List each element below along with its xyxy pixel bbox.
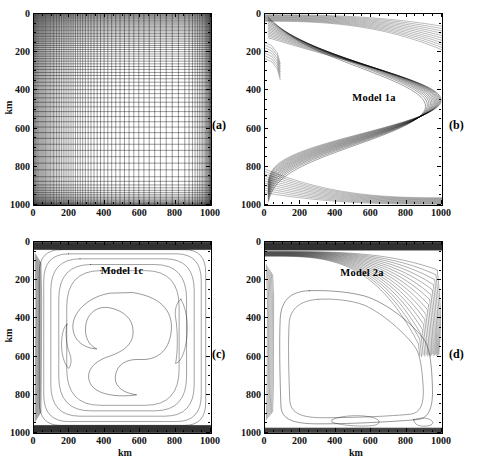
ytick-right-a-50	[208, 23, 211, 24]
ytick-right-c-750	[208, 384, 211, 385]
ytick-b-100	[264, 32, 267, 33]
xtick-b-50	[273, 202, 274, 205]
xtick-b-850	[414, 202, 415, 205]
xtick-d-850	[414, 430, 415, 433]
yticklabel-d-0: 0	[237, 236, 261, 247]
xtick-c-400	[104, 428, 105, 432]
ytick-right-b-700	[439, 147, 442, 148]
xtick-d-200	[299, 428, 300, 432]
xtick-top-c-1000	[210, 241, 211, 245]
xtick-c-350	[95, 430, 96, 433]
xtick-top-d-450	[344, 241, 345, 244]
xtick-top-c-300	[86, 241, 87, 244]
xtick-top-b-300	[317, 13, 318, 16]
ytick-b-250	[264, 61, 267, 62]
ytick-d-350	[264, 308, 267, 309]
xtick-c-1000	[210, 428, 211, 432]
ytick-d-900	[264, 413, 267, 414]
xtick-a-700	[157, 202, 158, 205]
xtick-top-a-250	[77, 13, 78, 16]
xtick-c-200	[68, 428, 69, 432]
xtick-d-600	[370, 428, 371, 432]
xtick-a-250	[77, 202, 78, 205]
ytick-right-c-200	[206, 279, 210, 280]
xtick-top-a-750	[166, 13, 167, 16]
xtick-b-950	[432, 202, 433, 205]
ytick-a-700	[33, 147, 36, 148]
xtick-d-900	[423, 430, 424, 433]
xticklabel-b-800: 800	[398, 207, 413, 218]
xticklabel-c-800: 800	[167, 435, 182, 446]
yticklabel-a-1000: 1000	[6, 199, 30, 210]
ytick-right-a-0	[206, 13, 210, 14]
panel-b-plot-area	[264, 13, 443, 206]
xtick-a-50	[42, 202, 43, 205]
ytick-c-100	[33, 260, 36, 261]
panel-a-plot-area	[33, 13, 212, 206]
ytick-b-450	[264, 99, 267, 100]
panel-a-grid-svg	[34, 14, 211, 205]
ytick-c-400	[33, 317, 37, 318]
xtick-top-a-850	[183, 13, 184, 16]
xtick-a-350	[95, 202, 96, 205]
ytick-right-c-900	[208, 413, 211, 414]
xtick-top-c-200	[68, 241, 69, 245]
ytick-b-200	[264, 51, 268, 52]
ytick-right-b-50	[439, 23, 442, 24]
xtick-top-a-700	[157, 13, 158, 16]
ytick-d-450	[264, 327, 267, 328]
ytick-right-c-700	[208, 375, 211, 376]
xtick-d-1000	[441, 428, 442, 432]
xtick-top-d-1000	[441, 241, 442, 245]
yticklabel-b-800: 800	[237, 160, 261, 171]
xtick-c-800	[175, 428, 176, 432]
ytick-right-a-950	[208, 194, 211, 195]
xtick-d-700	[388, 430, 389, 433]
xtick-top-c-800	[175, 241, 176, 245]
ytick-c-850	[33, 403, 36, 404]
xtick-top-b-800	[406, 13, 407, 17]
xtick-top-d-200	[299, 241, 300, 245]
xtick-top-a-50	[42, 13, 43, 16]
ytick-right-d-200	[437, 279, 441, 280]
ytick-a-650	[33, 137, 36, 138]
xtick-top-d-250	[308, 241, 309, 244]
xtick-a-850	[183, 202, 184, 205]
xtick-d-400	[335, 428, 336, 432]
xtick-a-800	[175, 200, 176, 204]
ytick-b-850	[264, 175, 267, 176]
xtick-top-a-800	[175, 13, 176, 17]
xtick-top-b-900	[423, 13, 424, 16]
ytick-a-450	[33, 99, 36, 100]
xtick-a-100	[51, 202, 52, 205]
yticklabel-a-200: 200	[6, 46, 30, 57]
ytick-c-50	[33, 251, 36, 252]
ytick-right-d-750	[439, 384, 442, 385]
xtick-c-750	[166, 430, 167, 433]
xticklabel-b-200: 200	[292, 207, 307, 218]
ytick-right-d-850	[439, 403, 442, 404]
xtick-a-750	[166, 202, 167, 205]
panel-a-ylabel: km	[3, 101, 14, 115]
ytick-right-d-350	[439, 308, 442, 309]
xtick-d-750	[397, 430, 398, 433]
xtick-top-b-850	[414, 13, 415, 16]
xtick-b-600	[370, 200, 371, 204]
xtick-d-250	[308, 430, 309, 433]
xtick-d-950	[432, 430, 433, 433]
ytick-b-650	[264, 137, 267, 138]
xtick-top-c-450	[113, 241, 114, 244]
xtick-d-50	[273, 430, 274, 433]
ytick-a-850	[33, 175, 36, 176]
ytick-right-c-0	[206, 241, 210, 242]
ytick-right-b-800	[437, 166, 441, 167]
ytick-b-150	[264, 42, 267, 43]
xtick-b-100	[282, 202, 283, 205]
xtick-a-300	[86, 202, 87, 205]
xtick-top-d-900	[423, 241, 424, 244]
xticklabel-c-400: 400	[96, 435, 111, 446]
ytick-right-a-800	[206, 166, 210, 167]
ytick-b-50	[264, 23, 267, 24]
xtick-top-c-550	[130, 241, 131, 244]
ytick-a-950	[33, 194, 36, 195]
